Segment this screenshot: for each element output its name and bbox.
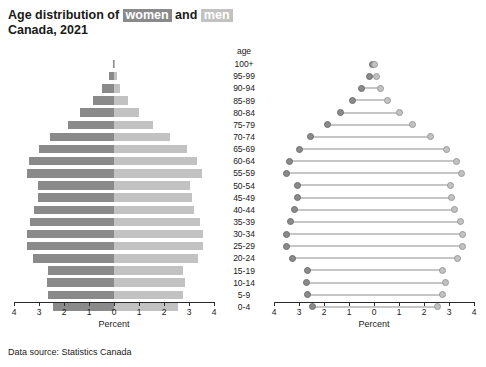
dumbbell-dot-men [447, 182, 454, 189]
age-label: 35-39 [222, 217, 266, 227]
pyramid-axis-tick-label: 0 [112, 307, 117, 317]
dumbbell-dot-men [451, 206, 458, 213]
title-line-2: Canada, 2021 [8, 23, 338, 38]
dumbbell-dot-women [286, 158, 293, 165]
pyramid-row [6, 206, 222, 215]
dumbbell-axis-tick-label: 1 [397, 307, 402, 317]
pyramid-bar-men [114, 169, 202, 178]
pyramid-row [6, 254, 222, 263]
pyramid-axis-tick [39, 302, 40, 306]
age-label: 30-34 [222, 229, 266, 239]
dumbbell-row [266, 179, 482, 191]
dumbbell-dot-men [377, 85, 384, 92]
title-highlight-men: men [201, 9, 233, 22]
pyramid-bar-women [38, 193, 114, 202]
dumbbell-axis-tick-label: 4 [472, 307, 477, 317]
dumbbell-axis-tick-label: 3 [297, 307, 302, 317]
pyramid-bar-men [114, 96, 128, 105]
dumbbell-dot-women [283, 170, 290, 177]
pyramid-row [6, 157, 222, 166]
age-label: 95-99 [222, 71, 266, 81]
pyramid-axis-tick [64, 302, 65, 306]
dumbbell-connector [308, 270, 443, 271]
pyramid-bar-women [34, 206, 114, 215]
dumbbell-dot-women [296, 146, 303, 153]
pyramid-row [6, 266, 222, 275]
pyramid-plot-area [6, 46, 222, 301]
dumbbell-dot-men [459, 243, 466, 250]
pyramid-bar-women [27, 242, 115, 251]
dumbbell-axis-tick [374, 302, 375, 306]
pyramid-bar-men [114, 206, 194, 215]
pyramid-row [6, 278, 222, 287]
pyramid-bar-men [114, 291, 183, 300]
dumbbell-row [266, 252, 482, 264]
pyramid-bar-men [114, 145, 187, 154]
pyramid-bar-men [114, 254, 198, 263]
dumbbell-dot-men [442, 279, 449, 286]
pyramid-axis-tick [89, 302, 90, 306]
dumbbell-dot-women [349, 97, 356, 104]
dumbbell-axis-tick-label: 0 [372, 307, 377, 317]
pyramid-row [6, 193, 222, 202]
age-label: 40-44 [222, 205, 266, 215]
age-label: 75-79 [222, 120, 266, 130]
dumbbell-row [266, 277, 482, 289]
age-label: 50-54 [222, 181, 266, 191]
dumbbell-connector [289, 161, 457, 162]
charts-container: Percent 432101234 age 100+95-9990-9485-8… [0, 46, 486, 336]
pyramid-bar-women [30, 218, 114, 227]
dumbbell-dot-men [457, 218, 464, 225]
pyramid-axis-tick-label: 3 [187, 307, 192, 317]
pyramid-x-axis: Percent 432101234 [6, 302, 222, 336]
pyramid-row [6, 72, 222, 81]
dumbbell-connector [328, 124, 413, 125]
pyramid-bar-men [114, 266, 183, 275]
pyramid-bar-women [48, 291, 114, 300]
dumbbell-row [266, 82, 482, 94]
dumbbell-plot-area [266, 46, 482, 301]
dumbbell-row [266, 204, 482, 216]
pyramid-row [6, 181, 222, 190]
pyramid-row [6, 230, 222, 239]
pyramid-bar-men [114, 121, 153, 130]
dumbbell-connector [287, 173, 462, 174]
dumbbell-axis-tick [299, 302, 300, 306]
dumbbell-row [266, 107, 482, 119]
dumbbell-dot-women [366, 73, 373, 80]
dumbbell-axis-tick [474, 302, 475, 306]
age-label: 20-24 [222, 253, 266, 263]
age-label: 0-4 [222, 302, 266, 312]
pyramid-bar-women [29, 157, 114, 166]
dumbbell-dot-women [303, 279, 310, 286]
age-label: 45-49 [222, 193, 266, 203]
dumbbell-axis-tick [324, 302, 325, 306]
dumbbell-axis-tick [349, 302, 350, 306]
dumbbell-dot-women [291, 206, 298, 213]
dumbbell-connector [307, 282, 446, 283]
pyramid-bar-men [114, 230, 203, 239]
dumbbell-dot-women [307, 133, 314, 140]
age-column-header: age [222, 46, 266, 56]
dumbbell-row [266, 216, 482, 228]
pyramid-bar-men [114, 242, 203, 251]
pyramid-axis-title: Percent [6, 319, 222, 329]
pyramid-axis-tick-label: 4 [12, 307, 17, 317]
dumbbell-dot-women [287, 218, 294, 225]
pyramid-bar-women [38, 181, 114, 190]
dumbbell-axis-tick [449, 302, 450, 306]
dumbbell-row [266, 192, 482, 204]
pyramid-axis-tick-label: 2 [62, 307, 67, 317]
dumbbell-dot-women [289, 255, 296, 262]
dumbbell-axis-tick-label: 3 [447, 307, 452, 317]
dumbbell-dot-women [294, 182, 301, 189]
page-title: Age distribution of women and men Canada… [8, 8, 338, 38]
pyramid-bar-men [114, 193, 192, 202]
dumbbell-connector [353, 100, 388, 101]
dumbbell-dot-men [439, 267, 446, 274]
dumbbell-dot-women [304, 291, 311, 298]
pyramid-bar-women [93, 96, 114, 105]
dumbbell-connector [287, 234, 463, 235]
dumbbell-dot-women [324, 121, 331, 128]
age-label: 25-29 [222, 241, 266, 251]
